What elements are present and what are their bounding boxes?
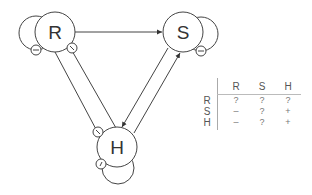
table-cell: ? [255,117,269,128]
column-header-h: H [281,81,295,92]
table-cell: + [281,106,295,117]
sign-marker-r-h-top [67,43,77,53]
sign-marker-h-self [96,159,106,169]
table-cell: ? [255,95,269,106]
row-header-h: H [200,117,214,128]
sign-marker-s-self [196,46,206,56]
edge-h-to-s [134,53,180,133]
column-header-r: R [229,81,243,92]
table-cell: ? [281,95,295,106]
table-cell: – [229,106,243,117]
interaction-table: R S H R ? ? ? S – ? + H – ? + [200,78,304,132]
row-header-r: R [200,95,214,106]
table-cell: + [281,117,295,128]
row-header-s: S [200,106,214,117]
svg-text:R: R [48,22,62,43]
table-vertical-divider [217,78,218,130]
table-cell: ? [255,106,269,117]
svg-text:S: S [177,22,190,43]
sign-marker-r-self [31,45,41,55]
edge-s-to-h [122,48,168,127]
table-cell: ? [229,95,243,106]
edge-r-h-a [55,52,98,133]
sign-marker-r-h-bottom [93,127,103,137]
edge-r-h-b [71,49,116,128]
node-s: S [163,12,203,52]
column-header-s: S [255,81,269,92]
svg-text:H: H [110,137,124,158]
table-cell: – [229,117,243,128]
